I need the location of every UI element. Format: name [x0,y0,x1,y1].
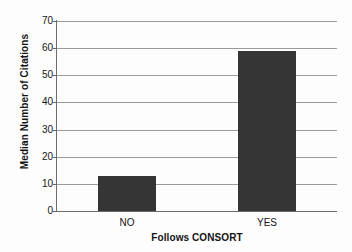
y-tick-label: 40 [13,97,53,107]
x-axis-title: Follows CONSORT [57,232,337,243]
gridline [57,211,337,212]
y-tick-label: 70 [13,16,53,26]
bar-no[interactable] [98,176,156,211]
y-tick-label: 10 [13,179,53,189]
y-tick-label: 60 [13,43,53,53]
plot-area [57,21,337,211]
gridline [57,21,337,22]
y-tick-label: 30 [13,125,53,135]
bar-chart: Median Number of Citations 0102030405060… [0,0,352,252]
y-tick-label: 0 [13,206,53,216]
x-tick-label-yes: YES [227,217,307,228]
y-tick-label: 50 [13,70,53,80]
gridline [57,48,337,49]
y-tick-label: 20 [13,152,53,162]
x-tick-label-no: NO [87,217,167,228]
bar-yes[interactable] [238,51,296,211]
